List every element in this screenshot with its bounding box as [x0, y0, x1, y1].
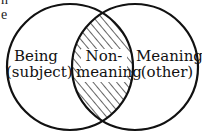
right-region-label: Meaning (other) — [136, 48, 198, 80]
non-label: Non- — [76, 48, 132, 64]
subject-label: (subject) — [6, 64, 66, 80]
cropped-text-fragment-2: e — [1, 8, 7, 22]
cropped-text-fragment-1: n — [1, 0, 8, 7]
left-region-label: Being (subject) — [6, 48, 66, 80]
being-label: Being — [6, 48, 66, 64]
meaning-center-label: meaning — [76, 64, 132, 80]
center-region-label: Non- meaning — [76, 48, 132, 80]
venn-diagram: n e Being (subject) Non- meaning Meaning… — [0, 0, 202, 133]
meaning-label: Meaning — [136, 48, 198, 64]
other-label: (other) — [136, 64, 198, 80]
